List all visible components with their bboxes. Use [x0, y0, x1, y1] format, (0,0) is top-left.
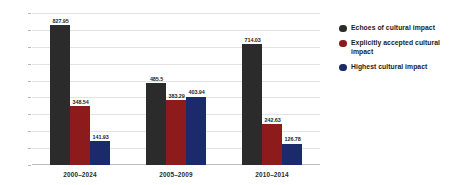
x-axis-category-label: 2010–2014	[224, 171, 320, 178]
bar-group-bars: 714.03242.63126.78	[224, 13, 320, 165]
y-axis-tick-mark	[28, 64, 31, 65]
bar-group: 485.5383.29403.942005–2009	[128, 13, 224, 165]
legend-swatch-icon	[339, 64, 347, 72]
y-axis-tick-mark	[28, 148, 31, 149]
y-axis-tick-mark	[28, 13, 31, 14]
bar-value-label: 827.95	[53, 18, 69, 24]
bar-rect[interactable]	[186, 97, 206, 165]
legend-item[interactable]: Highest cultural impact	[339, 63, 453, 71]
bar-value-label: 403.94	[189, 89, 205, 95]
bar-chart: 0100200300400500600700800900 827.95348.5…	[0, 0, 453, 185]
legend-swatch-icon	[339, 25, 347, 33]
bar-value-label: 485.5	[150, 76, 163, 82]
bar-rect[interactable]	[146, 83, 166, 165]
legend-item-label: Explicitly accepted cultural impact	[351, 39, 453, 56]
bar-rect[interactable]	[50, 25, 70, 165]
legend-item-label: Echoes of cultural impact	[351, 24, 435, 32]
y-axis-tick-mark	[28, 114, 31, 115]
bar-rect[interactable]	[70, 106, 90, 165]
legend-item[interactable]: Explicitly accepted cultural impact	[339, 39, 453, 56]
bar-value-label: 348.54	[73, 99, 89, 105]
bar-rect[interactable]	[242, 44, 262, 165]
y-axis-tick-mark	[28, 30, 31, 31]
x-axis-category-label: 2000–2024	[32, 171, 128, 178]
bar-value-label: 242.63	[265, 117, 281, 123]
plot-wrapper: 0100200300400500600700800900 827.95348.5…	[0, 0, 332, 185]
bar-value-label: 714.03	[245, 37, 261, 43]
legend-swatch-icon	[339, 40, 347, 48]
x-axis-category-label: 2005–2009	[128, 171, 224, 178]
y-axis-tick-mark	[28, 165, 31, 166]
y-axis-tick-mark	[28, 131, 31, 132]
bar-group: 714.03242.63126.782010–2014	[224, 13, 320, 165]
chart-legend: Echoes of cultural impactExplicitly acce…	[339, 24, 453, 79]
bar-rect[interactable]	[282, 144, 302, 165]
bar-rect[interactable]	[166, 100, 186, 165]
bar-group-bars: 485.5383.29403.94	[128, 13, 224, 165]
bar-value-label: 126.78	[285, 136, 301, 142]
bar-value-label: 141.93	[93, 134, 109, 140]
legend-item[interactable]: Echoes of cultural impact	[339, 24, 453, 32]
bar-rect[interactable]	[262, 124, 282, 165]
plot-area: 0100200300400500600700800900 827.95348.5…	[32, 13, 320, 165]
y-axis-tick-mark	[28, 81, 31, 82]
bar-group-bars: 827.95348.54141.93	[32, 13, 128, 165]
bar-rect[interactable]	[90, 141, 110, 165]
bar-group: 827.95348.54141.932000–2024	[32, 13, 128, 165]
bar-value-label: 383.29	[169, 93, 185, 99]
y-axis-tick-mark	[28, 97, 31, 98]
legend-item-label: Highest cultural impact	[351, 63, 427, 71]
y-axis-tick-mark	[28, 47, 31, 48]
